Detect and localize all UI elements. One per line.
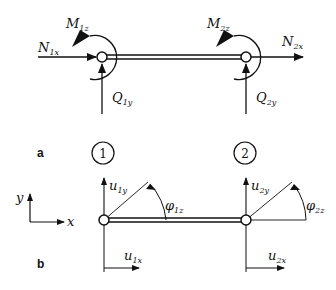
node2-hinge-b <box>241 215 251 225</box>
phi1z-label: φ1z <box>165 198 184 215</box>
beam-element-diagram: N1x M1z Q1y N2x M2z Q2y a 1 2 y x <box>0 0 336 290</box>
node1-displacements: u1y u1x φ1z <box>99 178 184 272</box>
u1y-label: u1y <box>109 178 127 195</box>
panel-a: N1x M1z Q1y N2x M2z Q2y a <box>37 16 303 160</box>
node-number-2: 2 <box>241 147 249 161</box>
n1x-label: N1x <box>37 40 59 57</box>
q2y-label: Q2y <box>256 90 277 107</box>
node2-hinge <box>241 52 251 62</box>
x-axis-label: x <box>67 214 75 229</box>
node2-displacements: u2y u2x φ2z <box>241 178 325 272</box>
m1z-label: M1z <box>65 16 89 33</box>
node-numbers: 1 2 <box>92 142 256 164</box>
y-axis-label: y <box>15 190 24 205</box>
node1-hinge <box>97 52 107 62</box>
q1y-label: Q1y <box>112 90 133 107</box>
node-number-1: 1 <box>99 147 107 161</box>
n2x-label: N2x <box>281 34 303 51</box>
phi2z-label: φ2z <box>306 198 325 215</box>
u2x-label: u2x <box>268 248 286 265</box>
node1-forces: N1x M1z Q1y <box>37 16 133 114</box>
node2-forces: N2x M2z Q2y <box>206 16 303 114</box>
panel-a-label: a <box>37 146 44 160</box>
panel-b-label: b <box>37 257 44 271</box>
u1x-label: u1x <box>124 248 142 265</box>
beam-b <box>104 218 246 222</box>
beam-a <box>102 55 246 59</box>
coordinate-axes: y x <box>15 190 75 229</box>
m2z-label: M2z <box>206 16 230 33</box>
panel-b: y x u1y u1x φ1z <box>15 178 325 272</box>
node1-hinge-b <box>99 215 109 225</box>
u2y-label: u2y <box>251 178 269 195</box>
